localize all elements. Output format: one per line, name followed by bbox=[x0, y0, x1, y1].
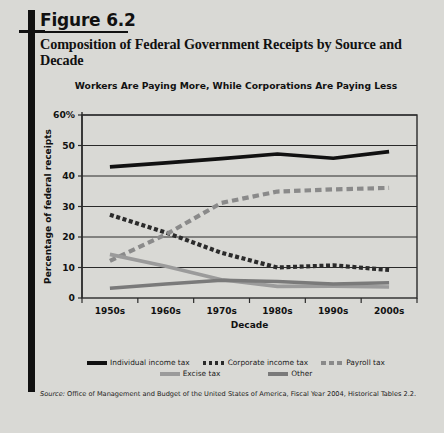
svg-text:20: 20 bbox=[62, 231, 75, 242]
svg-text:1960s: 1960s bbox=[151, 306, 181, 316]
figure-number: Figure 6.2 bbox=[40, 10, 432, 30]
chart-y-axis-title: Percentage of federal receipts bbox=[43, 129, 53, 284]
svg-text:1970s: 1970s bbox=[206, 306, 236, 316]
source-text: Office of Management and Budget of the U… bbox=[65, 390, 416, 398]
legend-label: Payroll tax bbox=[346, 358, 385, 367]
svg-text:1980s: 1980s bbox=[262, 306, 292, 316]
legend-row-2: Excise tax Other bbox=[40, 369, 432, 378]
figure-title: Composition of Federal Government Receip… bbox=[40, 37, 432, 68]
chart-x-tick-labels: 1950s1960s1970s1980s1990s2000s bbox=[95, 306, 405, 316]
chart-legend: Individual income tax Corporate income t… bbox=[40, 358, 432, 380]
svg-text:0: 0 bbox=[69, 292, 75, 303]
legend-swatch-icon bbox=[87, 361, 107, 365]
legend-item-other[interactable]: Other bbox=[268, 369, 312, 378]
line-chart: 0102030405060% 1950s1960s1970s1980s1990s… bbox=[36, 98, 436, 328]
legend-label: Individual income tax bbox=[110, 358, 190, 367]
legend-item-individual-income-tax[interactable]: Individual income tax bbox=[87, 358, 190, 367]
svg-text:40: 40 bbox=[62, 170, 75, 181]
legend-swatch-icon bbox=[160, 372, 180, 376]
legend-item-payroll-tax[interactable]: Payroll tax bbox=[321, 358, 385, 367]
chart-x-axis-title: Decade bbox=[231, 320, 269, 328]
figure-accent-bar bbox=[28, 10, 35, 392]
legend-label: Other bbox=[291, 369, 312, 378]
series-line-payroll-tax bbox=[110, 188, 389, 261]
legend-swatch-icon bbox=[321, 361, 343, 365]
svg-text:60%: 60% bbox=[53, 109, 75, 120]
legend-row-1: Individual income tax Corporate income t… bbox=[40, 358, 432, 367]
legend-item-corporate-income-tax[interactable]: Corporate income tax bbox=[203, 358, 309, 367]
source-label: Source: bbox=[40, 390, 65, 398]
svg-text:2000s: 2000s bbox=[374, 306, 404, 316]
series-line-individual-income-tax bbox=[110, 152, 389, 167]
chart-subtitle: Workers Are Paying More, While Corporati… bbox=[40, 80, 432, 91]
legend-swatch-icon bbox=[268, 372, 288, 376]
svg-text:10: 10 bbox=[62, 262, 75, 273]
chart-x-axis-ticks bbox=[82, 298, 417, 303]
legend-swatch-icon bbox=[203, 361, 225, 365]
figure-rule bbox=[40, 31, 128, 33]
svg-text:1990s: 1990s bbox=[318, 306, 348, 316]
legend-label: Corporate income tax bbox=[228, 358, 309, 367]
svg-text:1950s: 1950s bbox=[95, 306, 125, 316]
figure-source-note: Source: Office of Management and Budget … bbox=[40, 390, 428, 398]
chart-gridlines bbox=[82, 115, 417, 268]
svg-text:30: 30 bbox=[62, 201, 75, 212]
chart-container: 0102030405060% 1950s1960s1970s1980s1990s… bbox=[36, 98, 436, 328]
legend-item-excise-tax[interactable]: Excise tax bbox=[160, 369, 221, 378]
chart-y-tick-labels: 0102030405060% bbox=[53, 109, 75, 303]
figure-header: Figure 6.2 Composition of Federal Govern… bbox=[40, 10, 432, 68]
legend-label: Excise tax bbox=[183, 369, 221, 378]
svg-text:50: 50 bbox=[62, 140, 75, 151]
